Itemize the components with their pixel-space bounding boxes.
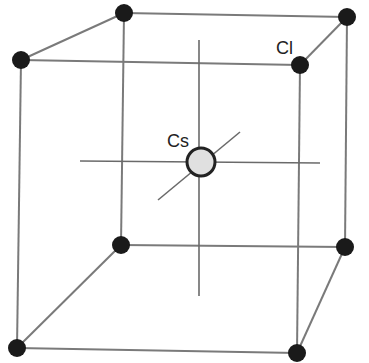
cs-atom (187, 148, 215, 176)
cl-label: Cl (276, 38, 293, 59)
cs-label: Cs (167, 131, 189, 152)
unit-cell-drawing (0, 0, 369, 363)
cl-atoms (8, 4, 356, 362)
cscl-diagram: Cs Cl (0, 0, 369, 363)
